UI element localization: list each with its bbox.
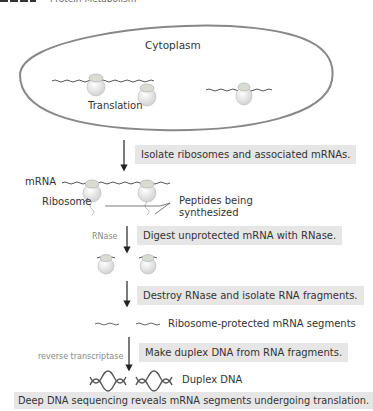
duplex-dna-icon — [90, 371, 172, 391]
step-digest-mrna: Digest unprotected mRNA with RNase. — [137, 226, 342, 245]
step-make-duplex-dna: Make duplex DNA from RNA fragments. — [139, 343, 348, 362]
cytoplasm-label: Cytoplasm — [145, 39, 201, 51]
reverse-transcriptase-label: reverse transcriptase — [38, 352, 123, 361]
peptides-label-line1: Peptides being — [179, 195, 253, 206]
rnase-label: RNase — [92, 232, 118, 241]
process-arrows — [124, 140, 129, 368]
step-deep-sequencing: Deep DNA sequencing reveals mRNA segment… — [14, 392, 373, 409]
duplex-dna-label: Duplex DNA — [182, 374, 242, 385]
step-isolate-ribosomes: Isolate ribosomes and associated mRNAs. — [135, 145, 356, 164]
protected-segments-label: Ribosome-protected mRNA segments — [168, 318, 356, 329]
translation-label: Translation — [88, 100, 143, 111]
ribosome-label: Ribosome — [42, 196, 91, 207]
rna-fragment-icon — [95, 323, 160, 325]
mrna-label: mRNA — [25, 176, 56, 187]
step-destroy-rnase: Destroy RNase and isolate RNA fragments. — [137, 286, 364, 305]
protected-ribosomes-icon — [97, 255, 157, 275]
peptides-label-line2: synthesized — [179, 207, 239, 218]
